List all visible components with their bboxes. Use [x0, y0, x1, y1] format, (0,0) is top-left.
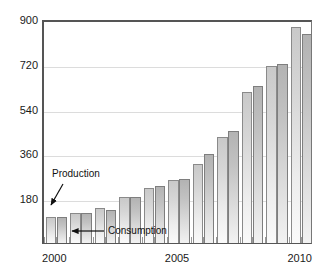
x-axis-tick-label: 2000: [42, 252, 66, 264]
bar-production-2004: [144, 188, 155, 243]
bar-consumption-2005: [179, 179, 190, 243]
bar-consumption-2001: [81, 213, 92, 243]
x-axis-tick-label: 2010: [287, 252, 311, 264]
bar-consumption-2000: [57, 217, 68, 243]
bar-production-2009: [266, 66, 277, 243]
bar-consumption-2002: [106, 210, 117, 243]
y-axis-tick-label: 360: [20, 149, 38, 160]
y-axis-tick-label: 540: [20, 104, 38, 115]
y-axis-tick-label: 720: [20, 59, 38, 70]
bar-production-2000: [46, 217, 57, 243]
bar-consumption-2003: [130, 197, 141, 243]
bar-consumption-2006: [204, 154, 215, 243]
bar-production-2006: [193, 164, 204, 243]
y-axis: 180360540720900: [0, 0, 38, 274]
bar-chart: 180360540720900 200020052010 Production …: [0, 0, 328, 274]
bar-production-2005: [168, 180, 179, 243]
bar-production-2001: [70, 213, 81, 243]
bar-consumption-2009: [277, 64, 288, 243]
x-axis-tick-label: 2005: [165, 252, 189, 264]
bar-consumption-2004: [155, 186, 166, 243]
bar-production-2007: [217, 137, 228, 243]
bar-consumption-2010: [302, 34, 312, 243]
bar-consumption-2008: [253, 86, 264, 243]
y-axis-tick-label: 180: [20, 194, 38, 205]
bar-production-2008: [242, 92, 253, 243]
bar-consumption-2007: [228, 131, 239, 243]
bar-series-container: [44, 22, 311, 243]
bar-production-2010: [291, 27, 302, 243]
y-axis-tick-label: 900: [20, 15, 38, 26]
plot-area: [42, 20, 312, 244]
x-axis: 200020052010: [0, 250, 328, 270]
bar-production-2002: [95, 208, 106, 243]
bar-production-2003: [119, 197, 130, 243]
